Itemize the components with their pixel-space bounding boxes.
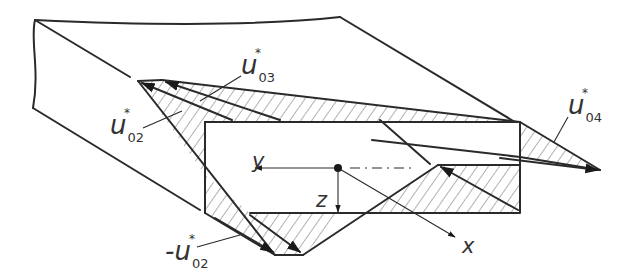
- beam-warping-diagram: [0, 0, 626, 275]
- axis-label-z: z: [316, 190, 327, 211]
- axis-label-x: x: [462, 236, 474, 257]
- label-u04: u*04: [568, 92, 602, 124]
- axis-label-y: y: [252, 151, 264, 172]
- label-neg-u02: -u*02: [165, 238, 208, 270]
- label-u03: u*03: [241, 52, 275, 84]
- origin-point: [334, 164, 342, 172]
- label-u02: u*02: [110, 112, 144, 144]
